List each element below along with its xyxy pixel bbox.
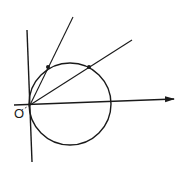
vertical-tangent-line (27, 30, 32, 162)
intersection-point-steep (46, 65, 50, 69)
intersection-point-shallow (87, 65, 91, 69)
origin-label: O (14, 106, 24, 121)
geometry-diagram: O (0, 0, 185, 176)
